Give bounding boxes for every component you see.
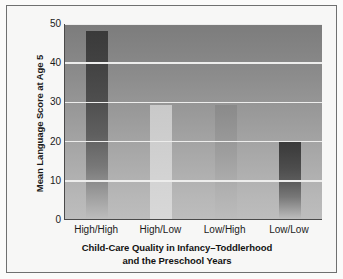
y-tick-label: 40 — [37, 58, 61, 68]
bar — [150, 105, 172, 219]
x-tick-label: High/Low — [128, 224, 192, 235]
x-tick-label: Low/Low — [257, 224, 321, 235]
x-axis-title: Child-Care Quality in Infancy–Toddlerhoo… — [27, 242, 327, 267]
x-axis-title-line-2: and the Preschool Years — [27, 255, 327, 268]
gridline — [65, 62, 322, 64]
y-tick-label: 20 — [37, 137, 61, 147]
gridline — [65, 102, 322, 104]
x-axis-title-line-1: Child-Care Quality in Infancy–Toddlerhoo… — [27, 242, 327, 255]
y-tick-label: 10 — [37, 176, 61, 186]
x-tick-label: High/High — [64, 224, 128, 235]
y-tick-label: 0 — [37, 215, 61, 225]
y-axis-tick-labels: 01020304050 — [37, 24, 61, 220]
bar — [215, 105, 237, 219]
figure-frame: Mean Language Score at Age 5 01020304050… — [6, 5, 337, 273]
gridline — [65, 141, 322, 143]
chart-figure: Mean Language Score at Age 5 01020304050… — [0, 0, 343, 279]
plot-area — [64, 24, 322, 220]
y-tick-label: 30 — [37, 97, 61, 107]
gridline — [65, 24, 322, 25]
bar — [86, 31, 108, 219]
x-axis-tick-labels: High/HighHigh/LowLow/HighLow/Low — [64, 224, 322, 238]
gridline — [65, 180, 322, 182]
y-tick-label: 50 — [37, 19, 61, 29]
x-tick-label: Low/High — [193, 224, 257, 235]
